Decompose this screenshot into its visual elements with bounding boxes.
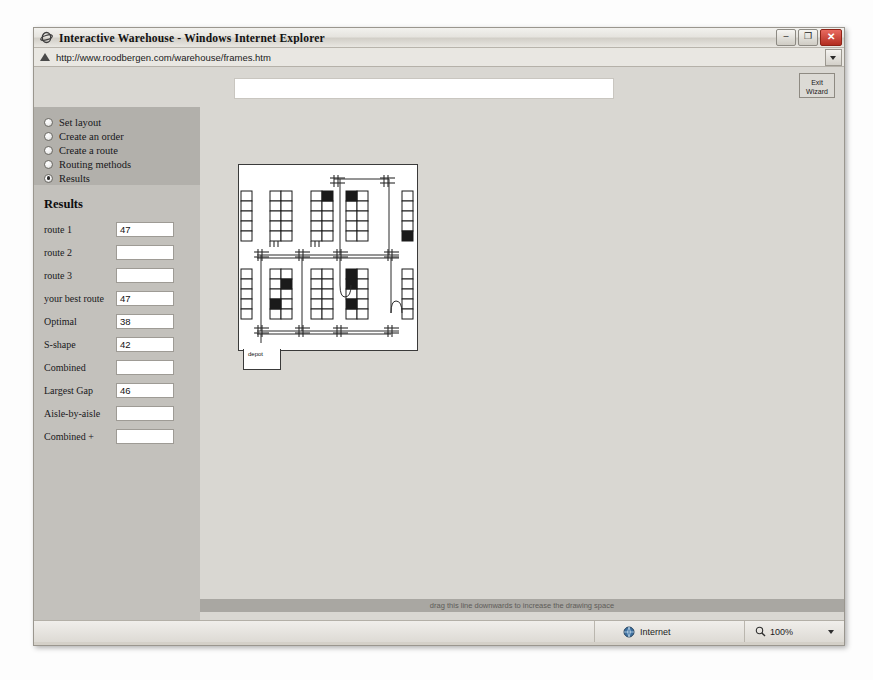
exit-wizard-label-line1: Exit bbox=[800, 78, 834, 87]
result-label: Combined bbox=[44, 362, 116, 373]
radio-icon[interactable] bbox=[44, 132, 53, 141]
result-value-input[interactable] bbox=[116, 360, 174, 375]
page-viewport: Exit Wizard Set layout Create an order bbox=[34, 67, 844, 620]
result-row-combined-plus: Combined + bbox=[44, 428, 200, 445]
minimize-icon: – bbox=[777, 30, 795, 45]
result-value-input[interactable] bbox=[116, 406, 174, 421]
status-bar: Internet 100% bbox=[34, 620, 844, 642]
result-label: Aisle-by-aisle bbox=[44, 408, 116, 419]
sidebar-item-routing-methods[interactable]: Routing methods bbox=[44, 157, 200, 171]
radio-icon[interactable] bbox=[44, 146, 53, 155]
result-label: route 1 bbox=[44, 224, 116, 235]
result-row-route-3: route 3 bbox=[44, 267, 200, 284]
drag-resize-bar[interactable]: drag this line downwards to increase the… bbox=[200, 599, 844, 612]
close-icon: ✕ bbox=[821, 30, 841, 45]
result-value-input[interactable]: 46 bbox=[116, 383, 174, 398]
depot-marker: depot bbox=[243, 349, 281, 370]
drawing-area: depot drag this line downwards to increa… bbox=[200, 107, 844, 620]
result-label: your best route bbox=[44, 293, 116, 304]
sidebar-item-set-layout[interactable]: Set layout bbox=[44, 115, 200, 129]
magnifier-icon bbox=[755, 626, 766, 637]
zoom-control[interactable]: 100% bbox=[744, 621, 844, 642]
result-row-s-shape: S-shape 42 bbox=[44, 336, 200, 353]
close-button[interactable]: ✕ bbox=[820, 29, 842, 46]
result-row-largest-gap: Largest Gap 46 bbox=[44, 382, 200, 399]
result-row-optimal: Optimal 38 bbox=[44, 313, 200, 330]
address-bar[interactable]: http://www.roodbergen.com/warehouse/fram… bbox=[34, 48, 844, 67]
radio-icon[interactable] bbox=[44, 118, 53, 127]
page-icon bbox=[39, 51, 51, 63]
restore-icon: ❐ bbox=[799, 30, 817, 45]
address-input[interactable]: http://www.roodbergen.com/warehouse/fram… bbox=[56, 52, 825, 63]
result-row-route-2: route 2 bbox=[44, 244, 200, 261]
result-value-input[interactable]: 47 bbox=[116, 222, 174, 237]
restore-button[interactable]: ❐ bbox=[798, 29, 818, 46]
pick-location bbox=[346, 269, 357, 279]
pick-location bbox=[346, 191, 357, 201]
exit-wizard-button[interactable]: Exit Wizard bbox=[799, 73, 835, 98]
title-bar: Interactive Warehouse - Windows Internet… bbox=[34, 28, 844, 48]
result-label: Optimal bbox=[44, 316, 116, 327]
radio-icon[interactable] bbox=[44, 160, 53, 169]
result-label: Combined + bbox=[44, 431, 116, 442]
browser-window: Interactive Warehouse - Windows Internet… bbox=[33, 27, 845, 646]
pick-location bbox=[281, 279, 292, 289]
globe-icon bbox=[623, 626, 635, 638]
result-row-your-best-route: your best route 47 bbox=[44, 290, 200, 307]
sidebar-item-label: Create a route bbox=[59, 145, 118, 156]
results-heading: Results bbox=[44, 197, 200, 212]
internet-explorer-icon bbox=[40, 31, 53, 44]
minimize-button[interactable]: – bbox=[776, 29, 796, 46]
result-label: S-shape bbox=[44, 339, 116, 350]
sidebar-item-create-an-order[interactable]: Create an order bbox=[44, 129, 200, 143]
result-label: route 3 bbox=[44, 270, 116, 281]
route-uturn bbox=[391, 301, 402, 313]
result-row-combined: Combined bbox=[44, 359, 200, 376]
pick-location bbox=[270, 299, 281, 309]
pick-location bbox=[346, 279, 357, 289]
result-value-input[interactable]: 38 bbox=[116, 314, 174, 329]
warehouse-layout-diagram[interactable]: depot bbox=[238, 164, 418, 351]
result-value-input[interactable]: 47 bbox=[116, 291, 174, 306]
security-zone-indicator[interactable]: Internet bbox=[594, 621, 744, 642]
result-value-input[interactable] bbox=[116, 245, 174, 260]
result-label: Largest Gap bbox=[44, 385, 116, 396]
sidebar-item-results[interactable]: Results bbox=[44, 171, 200, 185]
zoom-level-label: 100% bbox=[770, 627, 828, 637]
result-row-route-1: route 1 47 bbox=[44, 221, 200, 238]
window-title: Interactive Warehouse - Windows Internet… bbox=[59, 32, 774, 44]
sidebar-item-create-a-route[interactable]: Create a route bbox=[44, 143, 200, 157]
sidebar-item-label: Create an order bbox=[59, 131, 124, 142]
warehouse-svg bbox=[239, 165, 417, 350]
exit-wizard-label-line2: Wizard bbox=[800, 87, 834, 96]
results-panel: Results route 1 47 route 2 route 3 y bbox=[34, 185, 200, 445]
wizard-step-nav: Set layout Create an order Create a rout… bbox=[34, 107, 200, 185]
screenshot-root: Interactive Warehouse - Windows Internet… bbox=[0, 0, 873, 680]
page-header-strip: Exit Wizard bbox=[34, 67, 844, 107]
radio-icon-selected[interactable] bbox=[44, 174, 53, 183]
sidebar: Set layout Create an order Create a rout… bbox=[34, 107, 200, 620]
pick-location bbox=[402, 231, 413, 241]
banner-text-field[interactable] bbox=[234, 78, 614, 99]
sidebar-item-label: Routing methods bbox=[59, 159, 131, 170]
pick-location bbox=[346, 299, 357, 309]
security-zone-label: Internet bbox=[640, 627, 671, 637]
result-row-aisle-by-aisle: Aisle-by-aisle bbox=[44, 405, 200, 422]
sidebar-item-label: Results bbox=[59, 173, 90, 184]
result-value-input[interactable] bbox=[116, 268, 174, 283]
depot-label: depot bbox=[248, 351, 263, 357]
result-value-input[interactable] bbox=[116, 429, 174, 444]
result-label: route 2 bbox=[44, 247, 116, 258]
chevron-down-icon[interactable] bbox=[828, 630, 834, 634]
sidebar-item-label: Set layout bbox=[59, 117, 101, 128]
pick-location bbox=[322, 191, 333, 201]
address-dropdown-button[interactable] bbox=[825, 49, 842, 66]
result-value-input[interactable]: 42 bbox=[116, 337, 174, 352]
